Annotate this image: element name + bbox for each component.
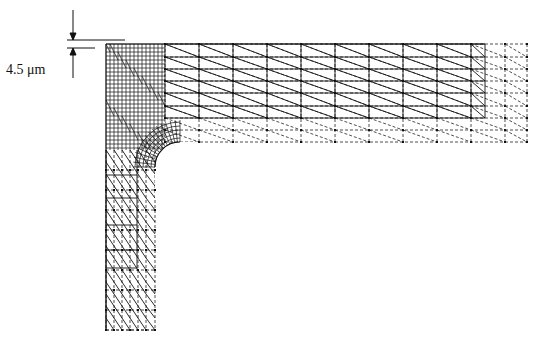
mesh-diagram	[0, 0, 539, 340]
dimension-label: 4.5 μm	[6, 62, 45, 78]
